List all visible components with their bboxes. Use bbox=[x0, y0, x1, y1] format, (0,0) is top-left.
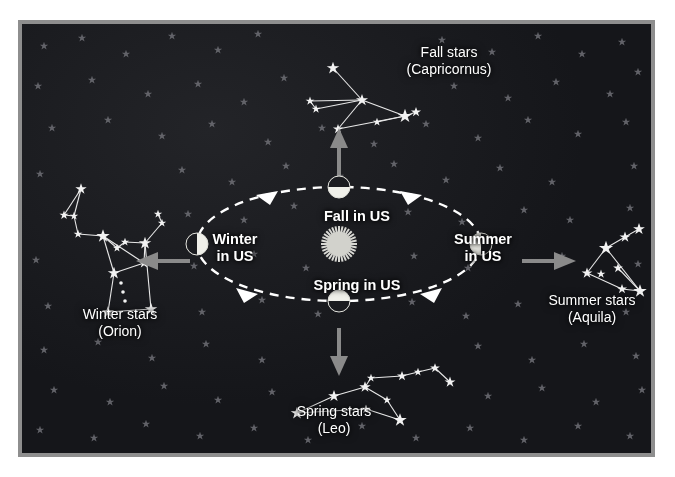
constellation-aquila bbox=[582, 223, 647, 297]
orion-belt-stars bbox=[119, 281, 127, 303]
image-frame: Fall stars(Capricornus) Winter stars(Ori… bbox=[18, 20, 655, 457]
earth-summer bbox=[470, 233, 492, 255]
sun bbox=[321, 226, 357, 262]
constellation-leo bbox=[291, 363, 456, 426]
diagram-canvas: Fall stars(Capricornus) Winter stars(Ori… bbox=[0, 0, 675, 477]
earth-fall bbox=[328, 176, 350, 198]
constellation-orion bbox=[59, 183, 166, 317]
diagram-svg bbox=[22, 24, 651, 453]
earth-winter bbox=[186, 233, 208, 255]
view-arrow-summer bbox=[522, 252, 576, 270]
constellation-capricornus bbox=[306, 62, 421, 134]
view-arrow-fall bbox=[330, 128, 348, 178]
night-sky-background: Fall stars(Capricornus) Winter stars(Ori… bbox=[22, 24, 651, 453]
view-arrow-spring bbox=[330, 328, 348, 376]
earth-spring bbox=[328, 290, 350, 312]
